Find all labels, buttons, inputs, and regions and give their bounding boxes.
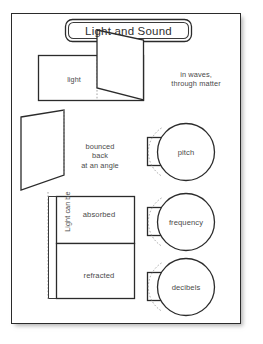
light-flap-label: light: [52, 75, 96, 84]
reflection-note: bounced back at an angle: [68, 142, 132, 170]
frequency-circle-label: frequency: [154, 218, 218, 228]
page-title: Light and Sound: [70, 24, 187, 39]
worksheet-page-wrapper: Light and Sound light in waves, through …: [0, 0, 263, 344]
absorbed-flap-label: absorbed: [67, 210, 131, 220]
pitch-circle-label: pitch: [158, 148, 214, 158]
travels-in-waves-note: in waves, through matter: [158, 70, 234, 89]
decibels-circle-label: decibels: [156, 283, 216, 293]
light-can-be-side-label: Light can be: [63, 183, 72, 241]
refracted-flap-label: refracted: [67, 271, 131, 281]
